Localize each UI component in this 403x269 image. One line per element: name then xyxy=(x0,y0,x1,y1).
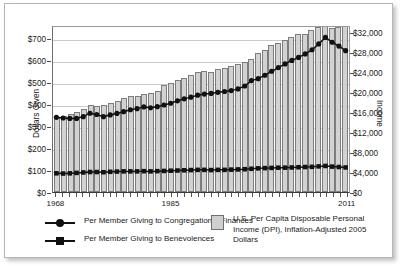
y-axis-right-tick-label: $12,000 xyxy=(353,129,383,138)
bar xyxy=(215,69,221,192)
x-axis-tickmark xyxy=(347,193,348,197)
bar xyxy=(329,28,335,193)
bar xyxy=(68,114,74,192)
y-axis-right-tick-label: $24,000 xyxy=(353,69,383,78)
bar xyxy=(188,75,194,192)
y-axis-left-tick-label: $300 xyxy=(5,123,46,132)
x-axis-tickmark xyxy=(231,193,232,197)
bar xyxy=(222,68,228,192)
y-axis-right-tick-label: $32,000 xyxy=(353,29,383,38)
bar xyxy=(242,62,248,192)
x-axis-tickmark xyxy=(164,193,165,197)
bar-series-income xyxy=(53,27,349,192)
square-line-marker-icon xyxy=(45,235,75,246)
x-axis-tickmark xyxy=(96,193,97,197)
x-axis-tickmark xyxy=(198,193,199,197)
y-axis-right-tickmark xyxy=(350,133,354,134)
y-axis-left-tick-label: $100 xyxy=(5,167,46,176)
bar xyxy=(135,96,141,192)
gray-square-swatch-icon xyxy=(211,215,224,230)
bar xyxy=(128,96,134,192)
x-axis-tickmark xyxy=(82,193,83,197)
y-axis-left-tickmark xyxy=(47,61,51,62)
bar xyxy=(255,53,261,192)
y-axis-left-tickmark xyxy=(47,39,51,40)
bar xyxy=(108,103,114,192)
x-axis-tickmark xyxy=(62,193,63,197)
bar xyxy=(248,59,254,192)
bar xyxy=(101,105,107,192)
bar xyxy=(175,80,181,192)
x-axis-tickmark xyxy=(259,193,260,197)
circle-line-marker-icon xyxy=(45,217,75,228)
y-axis-right-tick-label: $0 xyxy=(353,189,362,198)
x-axis-tickmark xyxy=(130,193,131,197)
y-axis-right-tick-label: $20,000 xyxy=(353,89,383,98)
x-axis-tickmark xyxy=(279,193,280,197)
bar xyxy=(141,94,147,192)
y-axis-left-tickmark xyxy=(47,83,51,84)
y-axis-right-tick-label: $28,000 xyxy=(353,49,383,58)
x-axis-tick-label: 2011 xyxy=(338,199,355,208)
x-axis-tickmark xyxy=(177,193,178,197)
x-axis-tickmark xyxy=(286,193,287,197)
x-axis-tickmark xyxy=(211,193,212,197)
y-axis-right-tick-label: $4,000 xyxy=(353,169,378,178)
bar xyxy=(228,66,234,192)
x-axis-tickmark xyxy=(313,193,314,197)
legend-label-dpi: U.S. Per Capita Disposable Personal Inco… xyxy=(233,214,383,246)
chart-figure: Dollars Given Income 196819852011 Per Me… xyxy=(4,3,393,258)
bar xyxy=(342,26,348,192)
x-axis-tickmark xyxy=(320,193,321,197)
bar xyxy=(148,93,154,192)
x-axis-tickmark xyxy=(123,193,124,197)
x-axis-tickmark xyxy=(184,193,185,197)
x-axis-tickmark xyxy=(326,193,327,197)
x-axis-tickmark xyxy=(55,193,56,197)
bar xyxy=(295,34,301,192)
y-axis-right-tickmark xyxy=(350,153,354,154)
x-axis-tickmark xyxy=(103,193,104,197)
bar xyxy=(288,37,294,192)
legend-label-benevolences: Per Member Giving to Benevolences xyxy=(84,234,214,245)
x-axis-tickmark xyxy=(272,193,273,197)
legend-item-dpi: U.S. Per Capita Disposable Personal Inco… xyxy=(211,214,383,246)
x-axis-tick-label: 1985 xyxy=(162,199,180,208)
y-axis-left-tickmark xyxy=(47,171,51,172)
bar xyxy=(201,71,207,192)
x-axis-tickmark xyxy=(171,193,172,197)
bar xyxy=(155,91,161,192)
y-axis-left-tick-label: $0 xyxy=(5,189,46,198)
bar xyxy=(322,26,328,192)
bar xyxy=(282,40,288,192)
bar xyxy=(81,109,87,192)
x-axis-tickmark xyxy=(333,193,334,197)
y-axis-left-tick-label: $700 xyxy=(5,35,46,44)
y-axis-left-tick-label: $200 xyxy=(5,145,46,154)
x-axis-tickmark xyxy=(225,193,226,197)
x-axis-tickmark xyxy=(204,193,205,197)
bar xyxy=(61,116,67,192)
y-axis-left-tickmark xyxy=(47,127,51,128)
y-axis-left-tickmark xyxy=(47,105,51,106)
y-axis-left-tickmark xyxy=(47,149,51,150)
bar xyxy=(161,85,167,192)
bar xyxy=(262,50,268,192)
bar xyxy=(121,98,127,192)
y-axis-right-tick-label: $8,000 xyxy=(353,149,378,158)
y-axis-right-tickmark xyxy=(350,113,354,114)
y-axis-right-tickmark xyxy=(350,173,354,174)
x-axis-tickmark xyxy=(143,193,144,197)
y-axis-right-tickmark xyxy=(350,33,354,34)
x-axis-tickmark xyxy=(238,193,239,197)
bar xyxy=(315,27,321,193)
bar xyxy=(208,72,214,192)
x-axis-tickmark xyxy=(252,193,253,197)
x-axis-tickmark xyxy=(245,193,246,197)
x-axis-tickmark xyxy=(157,193,158,197)
bar xyxy=(275,43,281,192)
x-axis-tickmark xyxy=(218,193,219,197)
bar xyxy=(268,45,274,192)
y-axis-right-tickmark xyxy=(350,53,354,54)
x-axis-tickmark xyxy=(89,193,90,197)
